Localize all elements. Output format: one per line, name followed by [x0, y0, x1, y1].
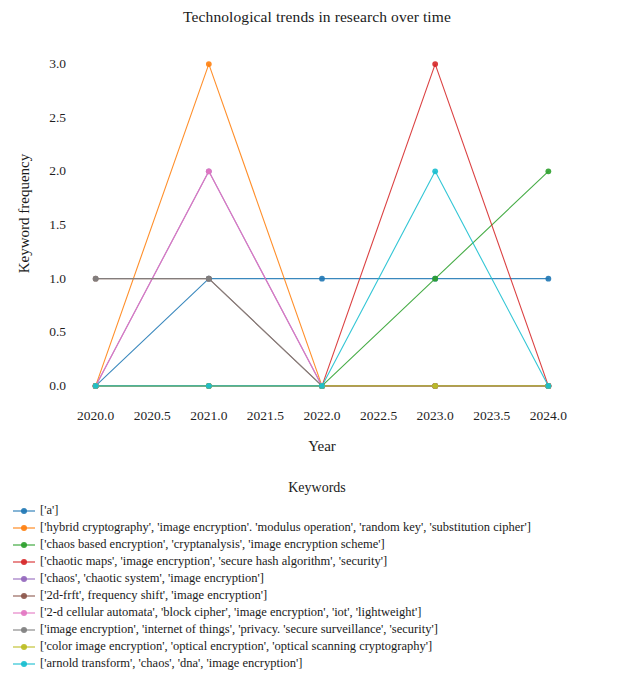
data-point-marker [545, 168, 551, 174]
y-axis-label: Keyword frequency [16, 104, 33, 324]
x-tick-label: 2020.5 [134, 408, 171, 424]
y-tick-label: 0.5 [24, 324, 66, 340]
legend-item[interactable]: ['a'] [0, 502, 634, 519]
data-point-marker [206, 276, 212, 282]
series-line [93, 276, 552, 389]
data-point-marker [432, 276, 438, 282]
data-point-marker [93, 383, 99, 389]
series-line [93, 61, 552, 389]
legend-item[interactable]: ['hybrid cryptography', 'image encryptio… [0, 519, 634, 536]
legend-title: Keywords [0, 480, 634, 496]
legend-label: ['2d-frft', frequency shift', 'image enc… [40, 588, 267, 603]
x-tick-label: 2022.5 [360, 408, 397, 424]
legend-item[interactable]: ['image encryption', 'internet of things… [0, 621, 634, 638]
x-tick-label: 2022.0 [303, 408, 340, 424]
legend-marker-icon [12, 640, 36, 654]
legend-marker-icon [12, 555, 36, 569]
series-line [93, 276, 552, 389]
legend-marker-icon [12, 538, 36, 552]
legend-label: ['hybrid cryptography', 'image encryptio… [40, 520, 531, 535]
chart-title: Technological trends in research over ti… [0, 8, 634, 26]
plot-area [73, 48, 571, 402]
legend-marker-icon [12, 589, 36, 603]
line-chart-svg [73, 48, 571, 402]
x-tick-label: 2021.5 [247, 408, 284, 424]
data-point-marker [206, 383, 212, 389]
legend-item[interactable]: ['color image encryption', 'optical encr… [0, 638, 634, 655]
x-tick-label: 2023.0 [417, 408, 454, 424]
data-point-marker [319, 383, 325, 389]
legend-marker-icon [12, 504, 36, 518]
data-point-marker [206, 168, 212, 174]
legend-label: ['chaotic maps', 'image encryption', 'se… [40, 554, 387, 569]
legend-item[interactable]: ['2-d cellular automata', 'block cipher'… [0, 604, 634, 621]
legend-label: ['chaos', 'chaotic system', 'image encry… [40, 571, 264, 586]
legend-marker-icon [12, 606, 36, 620]
legend-marker-icon [12, 521, 36, 535]
legend-label: ['image encryption', 'internet of things… [40, 622, 438, 637]
x-tick-label: 2024.0 [530, 408, 567, 424]
data-point-marker [432, 383, 438, 389]
legend-label: ['arnold transform', 'chaos', 'dna', 'im… [40, 656, 302, 671]
x-tick-label: 2020.0 [77, 408, 114, 424]
legend-label: ['color image encryption', 'optical encr… [40, 639, 432, 654]
legend-item[interactable]: ['chaos', 'chaotic system', 'image encry… [0, 570, 634, 587]
legend-marker-icon [12, 623, 36, 637]
legend-label: ['a'] [40, 503, 58, 518]
x-tick-label: 2021.0 [190, 408, 227, 424]
series-line [93, 61, 552, 389]
data-point-marker [93, 276, 99, 282]
data-point-marker [319, 276, 325, 282]
figure-canvas: Technological trends in research over ti… [0, 0, 634, 693]
data-point-marker [432, 61, 438, 67]
x-tick-label: 2023.5 [473, 408, 510, 424]
y-tick-label: 3.0 [24, 56, 66, 72]
data-point-marker [545, 383, 551, 389]
legend-label: ['chaos based encryption', 'cryptanalysi… [40, 537, 385, 552]
legend-items: ['a']['hybrid cryptography', 'image encr… [0, 502, 634, 672]
legend-item[interactable]: ['chaotic maps', 'image encryption', 'se… [0, 553, 634, 570]
y-tick-label: 0.0 [24, 378, 66, 394]
legend-item[interactable]: ['arnold transform', 'chaos', 'dna', 'im… [0, 655, 634, 672]
x-axis-tick-labels: 2020.02020.52021.02021.52022.02022.52023… [73, 408, 571, 428]
legend: Keywords ['a']['hybrid cryptography', 'i… [0, 480, 634, 672]
data-point-marker [432, 168, 438, 174]
legend-label: ['2-d cellular automata', 'block cipher'… [40, 605, 421, 620]
legend-item[interactable]: ['2d-frft', frequency shift', 'image enc… [0, 587, 634, 604]
x-axis-label: Year [73, 438, 571, 455]
series-line [93, 276, 552, 389]
legend-item[interactable]: ['chaos based encryption', 'cryptanalysi… [0, 536, 634, 553]
legend-marker-icon [12, 572, 36, 586]
data-point-marker [545, 276, 551, 282]
data-point-marker [206, 61, 212, 67]
legend-marker-icon [12, 657, 36, 671]
